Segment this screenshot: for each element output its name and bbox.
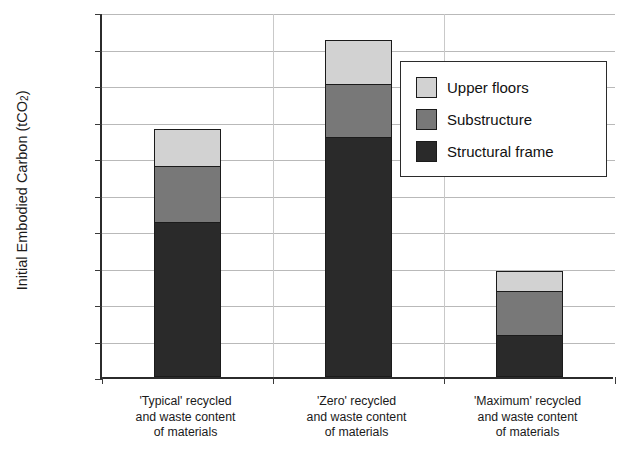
y-axis-tick [95,124,102,125]
bar-segment[interactable] [325,40,392,85]
legend: Upper floors Substructure Structural fra… [400,61,607,177]
bar-segment[interactable] [496,335,563,377]
bar-segment[interactable] [325,137,392,377]
bar-segment[interactable] [496,271,563,292]
x-axis-tick [273,377,274,384]
legend-swatch-substructure [416,109,437,130]
x-axis-category-label: 'Zero' recycledand waste contentof mater… [277,394,437,441]
legend-label-substructure: Substructure [447,111,532,128]
y-axis-tick [95,343,102,344]
x-axis-category-label-line: 'Typical' recycled [106,394,266,410]
legend-swatch-upper-floors [416,77,437,98]
y-axis-tick [95,160,102,161]
bar-segment[interactable] [154,222,221,377]
x-axis-category-label-line: 'Maximum' recycled [448,394,608,410]
y-axis-title-subscript: 2 [19,95,30,101]
x-axis-category-label-line: and waste content [448,410,608,426]
bar-segment[interactable] [154,166,221,223]
x-axis-category-label-line: of materials [106,425,266,441]
gridline [102,14,615,15]
bar-segment[interactable] [496,291,563,336]
y-axis-title-tail: ) [14,90,30,95]
x-axis-tick [444,377,445,384]
y-axis-tick [95,51,102,52]
bar-column[interactable] [154,129,221,377]
x-axis-category-label: 'Maximum' recycledand waste contentof ma… [448,394,608,441]
x-axis-tick [615,377,616,384]
legend-item-substructure: Substructure [416,103,606,135]
legend-swatch-structural-frame [416,141,437,162]
category-divider [273,14,274,377]
stacked-bar-chart: Initial Embodied Carbon (tCO2) 50,00045,… [0,0,625,460]
x-axis-category-label-line: and waste content [106,410,266,426]
legend-item-upper-floors: Upper floors [416,71,606,103]
y-axis-tick [95,87,102,88]
x-axis-tick [102,377,103,384]
x-axis-category-label-line: of materials [277,425,437,441]
y-axis-tick [95,197,102,198]
y-axis-tick [95,233,102,234]
x-axis-category-label-line: of materials [448,425,608,441]
x-axis-category-label-line: 'Zero' recycled [277,394,437,410]
x-axis-category-label-line: and waste content [277,410,437,426]
y-axis-title-main: Initial Embodied Carbon (tCO [14,101,30,290]
bar-column[interactable] [496,271,563,377]
y-axis-tick [95,270,102,271]
y-axis-tick [95,14,102,15]
bar-segment[interactable] [325,84,392,138]
bar-segment[interactable] [154,129,221,168]
legend-label-upper-floors: Upper floors [447,79,529,96]
legend-label-structural-frame: Structural frame [447,143,554,160]
legend-item-structural-frame: Structural frame [416,135,606,167]
bar-column[interactable] [325,40,392,377]
y-axis-tick [95,306,102,307]
y-axis-title: Initial Embodied Carbon (tCO2) [14,20,31,360]
x-axis-category-label: 'Typical' recycledand waste contentof ma… [106,394,266,441]
y-axis-tick [95,379,102,380]
